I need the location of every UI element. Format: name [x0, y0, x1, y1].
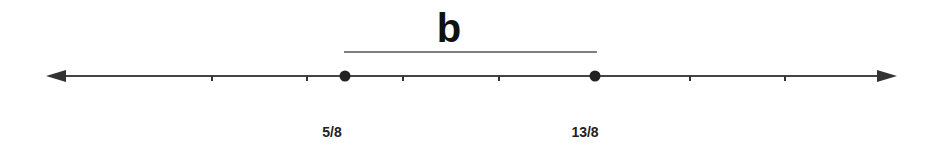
left-arrow-icon — [46, 70, 66, 82]
endpoint-dot — [590, 71, 601, 82]
number-line-diagram: b 5/8 13/8 — [0, 0, 938, 152]
endpoint-dot — [340, 71, 351, 82]
right-arrow-icon — [877, 70, 897, 82]
number-line — [0, 0, 938, 152]
point-label-end: 13/8 — [571, 125, 598, 139]
point-label-start: 5/8 — [322, 125, 341, 139]
